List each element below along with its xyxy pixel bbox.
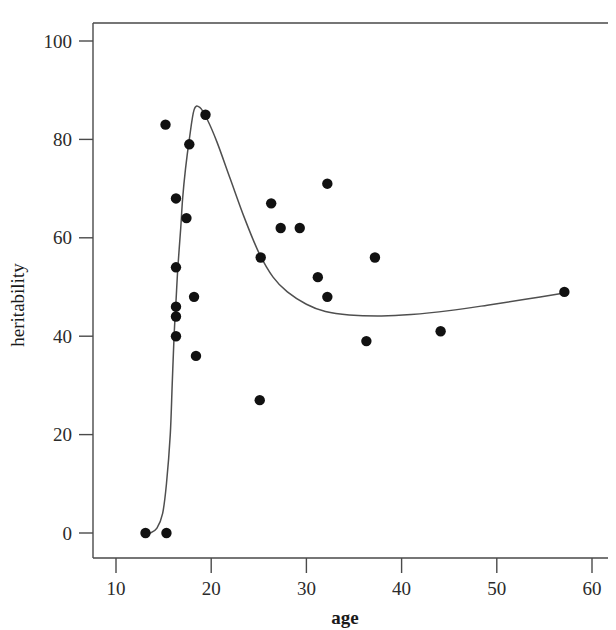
y-axis-ticks: 020406080100: [44, 31, 94, 544]
data-point: [171, 331, 181, 341]
data-point: [276, 223, 286, 233]
data-point: [322, 178, 332, 188]
data-point: [191, 351, 201, 361]
x-tick-label: 50: [487, 578, 506, 599]
data-point: [171, 262, 181, 272]
data-point: [370, 252, 380, 262]
data-point: [160, 119, 170, 129]
y-tick-label: 0: [63, 523, 73, 544]
y-axis-title: heritability: [7, 263, 28, 347]
x-axis-title: age: [331, 607, 358, 628]
scatter-plot-figure: 020406080100 102030405060 age heritabili…: [0, 0, 616, 630]
x-tick-label: 60: [583, 578, 602, 599]
plot-svg: 020406080100 102030405060 age heritabili…: [0, 0, 616, 630]
data-point: [322, 292, 332, 302]
x-tick-label: 30: [297, 578, 316, 599]
data-point: [200, 110, 210, 120]
x-axis-ticks: 102030405060: [107, 558, 602, 599]
y-tick-label: 80: [53, 129, 72, 150]
data-point: [266, 198, 276, 208]
data-points-group: [140, 110, 569, 539]
y-tick-label: 100: [44, 31, 73, 52]
data-point: [171, 193, 181, 203]
data-point: [295, 223, 305, 233]
x-tick-label: 20: [202, 578, 221, 599]
data-point: [361, 336, 371, 346]
fitted-curve: [146, 106, 564, 533]
plot-frame: [93, 23, 608, 558]
data-point: [559, 287, 569, 297]
data-point: [256, 252, 266, 262]
data-point: [140, 528, 150, 538]
data-point: [171, 301, 181, 311]
data-point: [171, 311, 181, 321]
y-tick-label: 40: [53, 326, 72, 347]
x-tick-label: 40: [392, 578, 411, 599]
data-point: [184, 139, 194, 149]
y-tick-label: 60: [53, 227, 72, 248]
data-point: [255, 395, 265, 405]
data-point: [313, 272, 323, 282]
x-tick-label: 10: [107, 578, 126, 599]
y-tick-label: 20: [53, 424, 72, 445]
data-point: [161, 528, 171, 538]
data-point: [189, 292, 199, 302]
data-point: [181, 213, 191, 223]
data-point: [435, 326, 445, 336]
